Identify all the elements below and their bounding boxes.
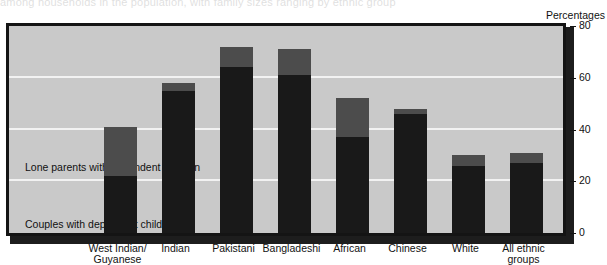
bar-chart: Lone parents with dependent children Cou…	[6, 23, 570, 240]
bar-segment-lone-parents-6	[452, 155, 485, 165]
plot-area: Lone parents with dependent children Cou…	[6, 23, 566, 236]
y-tick-label-80: 80	[579, 19, 591, 31]
bar-segment-lone-parents-7	[510, 153, 543, 163]
legend-couples: Couples with dependent children	[25, 219, 177, 231]
y-tick-label-60: 60	[579, 71, 591, 83]
legend-lone-line1: Lone parents with	[25, 161, 108, 173]
y-tick-0	[570, 233, 576, 234]
y-tick-80	[570, 26, 576, 27]
y-axis: 020406080	[570, 23, 607, 243]
x-axis-label-7: All ethnicgroups	[487, 243, 561, 264]
bar-1	[162, 83, 195, 233]
bar-0	[104, 127, 137, 233]
bar-segment-couples-5	[394, 114, 427, 233]
bar-segment-lone-parents-3	[278, 49, 311, 75]
bar-segment-couples-1	[162, 91, 195, 233]
y-tick-label-20: 20	[579, 174, 591, 186]
bar-segment-couples-6	[452, 166, 485, 233]
y-tick-label-0: 0	[579, 226, 585, 238]
y-tick-40	[570, 130, 576, 131]
y-tick-label-40: 40	[579, 123, 591, 135]
bar-segment-lone-parents-0	[104, 127, 137, 176]
bar-segment-couples-3	[278, 75, 311, 233]
bar-segment-lone-parents-1	[162, 83, 195, 91]
bar-segment-lone-parents-2	[220, 47, 253, 68]
bar-5	[394, 109, 427, 233]
bar-6	[452, 155, 485, 233]
bar-segment-couples-0	[104, 176, 137, 233]
x-axis-label-7-line-0: All ethnic	[487, 243, 561, 254]
bar-2	[220, 47, 253, 233]
y-tick-60	[570, 78, 576, 79]
bar-segment-couples-4	[336, 137, 369, 233]
bar-4	[336, 98, 369, 233]
page-bleed-text: among households in the population, with…	[0, 0, 607, 8]
y-tick-20	[570, 181, 576, 182]
bar-segment-couples-2	[220, 67, 253, 233]
x-axis-label-7-line-1: groups	[487, 254, 561, 265]
bar-segment-couples-7	[510, 163, 543, 233]
x-axis-labels: West Indian/GuyaneseIndianPakistaniBangl…	[0, 243, 607, 262]
plot-inner: Lone parents with dependent children Cou…	[9, 26, 563, 233]
legend-couple-line1: Couples with	[25, 218, 85, 230]
unit-label: Percentages	[546, 9, 605, 21]
bar-segment-lone-parents-4	[336, 98, 369, 137]
bar-3	[278, 49, 311, 233]
x-axis-label-0-line-1: Guyanese	[81, 254, 155, 265]
bar-7	[510, 153, 543, 233]
